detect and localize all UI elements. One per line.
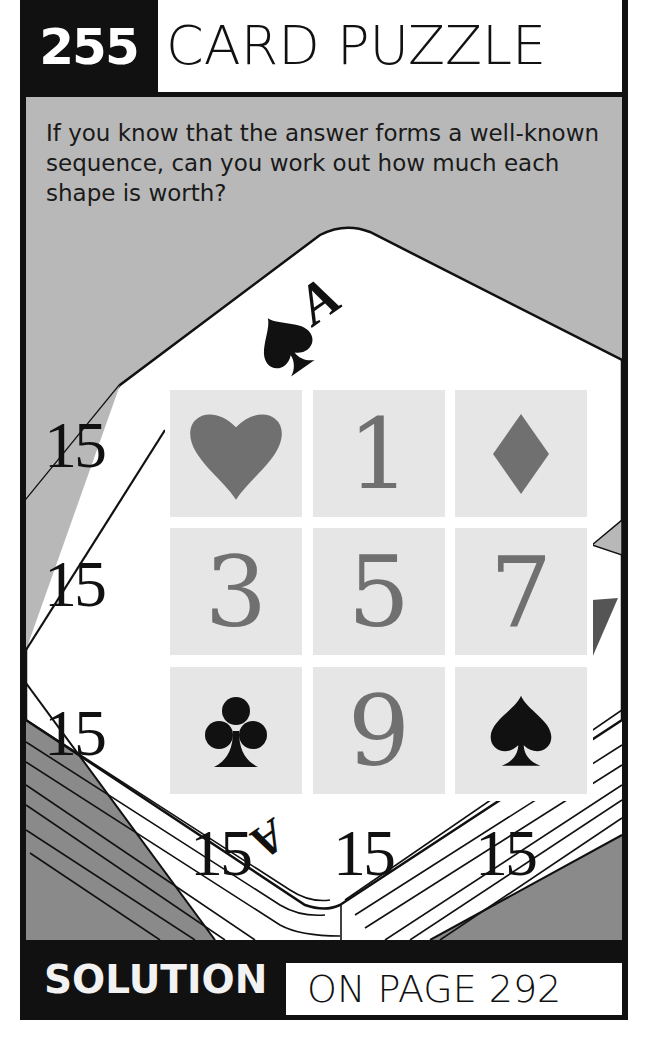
column-sum-1: 15 <box>190 820 250 886</box>
grid-cell-r1c1 <box>170 390 302 517</box>
grid-cell-r2c2: 5 <box>313 528 445 655</box>
solution-label: SOLUTION <box>20 940 285 1020</box>
grid-cell-r1c3 <box>455 390 587 517</box>
grid-cell-r2c3: 7 <box>455 528 587 655</box>
puzzle-number: 255 <box>20 0 157 95</box>
spade-icon <box>489 691 553 771</box>
puzzle-page: 255 CARD PUZZLE <box>0 0 651 1051</box>
grid-cell-r3c2: 9 <box>313 667 445 794</box>
diamond-icon <box>491 412 551 496</box>
column-sum-2: 15 <box>333 820 393 886</box>
column-sum-3: 15 <box>475 820 535 886</box>
row-sum-3: 15 <box>44 700 104 766</box>
row-sum-2: 15 <box>44 551 104 617</box>
grid-cell-r1c2: 1 <box>313 390 445 517</box>
club-icon <box>201 691 271 771</box>
heart-icon <box>186 404 286 504</box>
puzzle-prompt: If you know that the answer forms a well… <box>46 118 606 208</box>
solution-page-reference: ON PAGE 292 <box>286 963 622 1015</box>
grid-cell-r2c1: 3 <box>170 528 302 655</box>
grid-cell-r3c1 <box>170 667 302 794</box>
row-sum-1: 15 <box>44 412 104 478</box>
grid-cell-r3c3 <box>455 667 587 794</box>
puzzle-title: CARD PUZZLE <box>158 0 622 92</box>
